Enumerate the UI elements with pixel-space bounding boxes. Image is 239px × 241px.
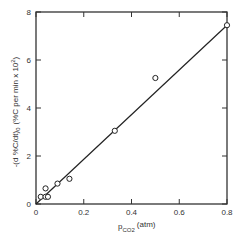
x-tick-label: 0.8 bbox=[221, 208, 233, 217]
y-tick-label: 0 bbox=[27, 200, 32, 209]
plot-frame bbox=[36, 12, 227, 204]
y-tick-label: 8 bbox=[27, 8, 32, 17]
chart: 00.20.40.60.802468pCO2(atm)-(d %C/dt)0(%… bbox=[0, 0, 239, 241]
fit-line bbox=[36, 25, 227, 204]
data-point bbox=[55, 181, 60, 186]
data-point bbox=[43, 186, 48, 191]
x-tick-label: 0.6 bbox=[174, 208, 186, 217]
data-point bbox=[153, 75, 158, 80]
data-point bbox=[67, 176, 72, 181]
x-tick-label: 0.2 bbox=[78, 208, 90, 217]
data-point bbox=[45, 194, 50, 199]
y-tick-label: 6 bbox=[27, 56, 32, 65]
y-tick-label: 2 bbox=[27, 152, 32, 161]
data-point bbox=[224, 23, 229, 28]
y-tick-label: 4 bbox=[27, 104, 32, 113]
x-tick-label: 0 bbox=[34, 208, 39, 217]
x-tick-label: 0.4 bbox=[126, 208, 138, 217]
y-axis-label: -(d %C/dt)0(%C per min x 102) bbox=[10, 56, 21, 167]
x-axis-label: pCO2(atm) bbox=[118, 220, 156, 233]
data-point bbox=[112, 128, 117, 133]
